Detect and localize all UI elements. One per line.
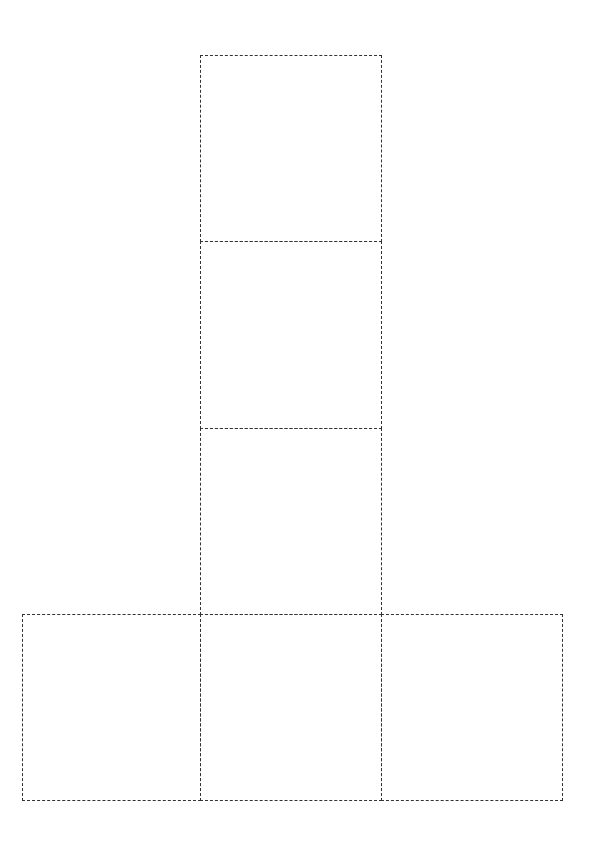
face-bottom-center <box>200 614 382 801</box>
face-bottom-right <box>381 614 563 801</box>
cube-net-diagram <box>0 0 593 860</box>
face-lower-middle <box>200 428 382 615</box>
face-bottom-left <box>22 614 201 801</box>
face-upper-middle <box>200 241 382 429</box>
face-top <box>200 55 382 242</box>
